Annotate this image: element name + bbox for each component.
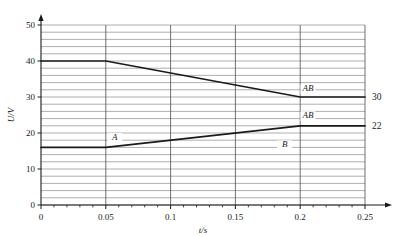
x-tick-label: 0.1 bbox=[165, 212, 176, 222]
y-tick-label: 0 bbox=[31, 200, 36, 210]
series-line-AB-upper bbox=[41, 61, 365, 97]
upper-end-value: 30 bbox=[372, 92, 382, 102]
series-line-AB-lower bbox=[41, 126, 365, 148]
grid-lines bbox=[41, 25, 365, 205]
lower-end-value: 22 bbox=[372, 121, 382, 131]
y-axis-ticks: 01020304050 bbox=[26, 20, 41, 210]
annotation-AB: AB bbox=[301, 83, 313, 93]
y-tick-label: 50 bbox=[26, 20, 36, 30]
y-tick-label: 20 bbox=[26, 128, 36, 138]
y-axis-title: U/V bbox=[6, 106, 16, 122]
right-end-labels: 3022 bbox=[372, 92, 382, 131]
x-tick-label: 0.25 bbox=[357, 212, 373, 222]
x-axis-arrow bbox=[385, 202, 392, 207]
annotation-A: A bbox=[111, 132, 118, 142]
y-axis-arrow bbox=[38, 14, 43, 21]
x-tick-label: 0.15 bbox=[228, 212, 244, 222]
voltage-vs-time-chart: 0102030405000.050.10.150.20.25t/sU/VAABA… bbox=[0, 0, 398, 236]
axes bbox=[38, 14, 392, 208]
y-tick-label: 30 bbox=[26, 92, 36, 102]
annotation-AB: AB bbox=[301, 110, 313, 120]
annotation-B: B bbox=[282, 139, 288, 149]
x-tick-label: 0.05 bbox=[98, 212, 114, 222]
x-axis-ticks: 00.050.10.150.20.25 bbox=[39, 205, 374, 222]
x-tick-label: 0 bbox=[39, 212, 44, 222]
x-axis-title: t/s bbox=[199, 225, 208, 235]
y-tick-label: 10 bbox=[26, 164, 36, 174]
x-tick-label: 0.2 bbox=[295, 212, 306, 222]
y-tick-label: 40 bbox=[26, 56, 36, 66]
chart-container: 0102030405000.050.10.150.20.25t/sU/VAABA… bbox=[0, 0, 398, 236]
